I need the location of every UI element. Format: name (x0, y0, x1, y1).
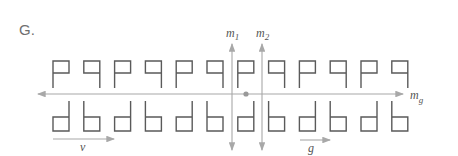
glyph-d (53, 101, 69, 131)
glide-axis-label: mg (410, 88, 424, 105)
glyph-d (299, 101, 315, 131)
glyph-q (392, 61, 408, 88)
glyph-b (330, 101, 346, 131)
bottom-row-glyphs (53, 101, 408, 131)
glyph-P (361, 61, 377, 88)
mirror-label-m2: m2 (256, 26, 270, 42)
glyph-P (53, 61, 69, 88)
glyph-d (115, 101, 131, 131)
glyph-q (207, 61, 223, 88)
glyph-d (361, 101, 377, 131)
glyph-P (238, 61, 254, 88)
glyph-q (269, 61, 285, 88)
glyph-q (330, 61, 346, 88)
glyph-d (176, 101, 192, 131)
center-dot (243, 91, 248, 96)
glyph-b (145, 101, 161, 131)
glyph-q (84, 61, 100, 88)
glide-vector-label: g (308, 141, 314, 155)
translation-vector-label: v (80, 140, 86, 154)
glyph-b (207, 101, 223, 131)
glyph-d (238, 101, 254, 131)
glyph-P (115, 61, 131, 88)
glyph-P (299, 61, 315, 88)
mirror-label-m1: m1 (226, 26, 239, 42)
glyph-b (84, 101, 100, 131)
glyph-q (145, 61, 161, 88)
top-row-glyphs (53, 61, 408, 88)
glyph-P (176, 61, 192, 88)
frieze-pattern-diagram: mg m1 m2 v g (0, 0, 458, 156)
glyph-b (392, 101, 408, 131)
glyph-b (269, 101, 285, 131)
